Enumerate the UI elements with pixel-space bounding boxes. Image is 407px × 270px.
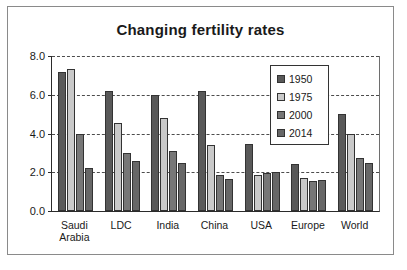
bar — [356, 158, 364, 211]
bar — [263, 173, 271, 211]
x-axis-labels: SaudiArabiaLDCIndiaChinaUSAEuropeWorld — [51, 215, 378, 255]
y-tick-label: 8.0 — [30, 50, 45, 62]
chart-frame: Changing fertility rates 0.02.04.06.08.0… — [7, 6, 394, 255]
bar — [76, 134, 84, 212]
bar — [85, 168, 93, 211]
plot-area: 0.02.04.06.08.0 — [51, 56, 380, 212]
bar — [151, 95, 159, 211]
y-tick-label: 4.0 — [30, 128, 45, 140]
x-axis-label: LDC — [98, 219, 145, 231]
bar — [338, 114, 346, 211]
bar — [207, 145, 215, 211]
bar-group — [52, 56, 99, 211]
x-axis-label: USA — [238, 219, 285, 231]
y-tick-mark — [48, 211, 52, 212]
bar-group — [99, 56, 146, 211]
bar — [105, 91, 113, 211]
chart-legend: 1950197520002014 — [270, 65, 329, 145]
legend-label: 1950 — [289, 73, 312, 85]
y-tick-label: 2.0 — [30, 166, 45, 178]
bar — [123, 153, 131, 211]
bars-layer — [52, 56, 379, 211]
bar — [132, 161, 140, 211]
bar — [114, 123, 122, 211]
legend-label: 2014 — [289, 127, 312, 139]
x-axis-label: Europe — [285, 219, 332, 231]
bar — [216, 175, 224, 211]
bar — [365, 163, 373, 211]
bar — [245, 144, 253, 211]
legend-swatch — [277, 93, 285, 101]
bar — [309, 181, 317, 211]
bar-group — [192, 56, 239, 211]
bar — [67, 69, 75, 211]
legend-item: 2000 — [277, 106, 328, 124]
legend-item: 1975 — [277, 88, 328, 106]
bar-group — [145, 56, 192, 211]
legend-swatch — [277, 129, 285, 137]
x-axis-label: World — [331, 219, 378, 231]
bar — [225, 179, 233, 211]
bar — [178, 163, 186, 211]
bar-group — [332, 56, 379, 211]
y-tick-label: 6.0 — [30, 89, 45, 101]
bar — [300, 178, 308, 211]
legend-swatch — [277, 75, 285, 83]
bar — [254, 175, 262, 211]
bar — [272, 172, 280, 211]
legend-item: 2014 — [277, 124, 328, 142]
legend-label: 1975 — [289, 91, 312, 103]
legend-swatch — [277, 111, 285, 119]
bar — [160, 118, 168, 211]
x-axis-label: China — [191, 219, 238, 231]
bar — [198, 91, 206, 211]
bar — [291, 164, 299, 211]
legend-item: 1950 — [277, 70, 328, 88]
x-axis-label: India — [144, 219, 191, 231]
bar — [318, 180, 326, 211]
bar — [58, 72, 66, 212]
chart-title: Changing fertility rates — [8, 21, 393, 38]
legend-label: 2000 — [289, 109, 312, 121]
bar — [347, 134, 355, 212]
bar — [169, 151, 177, 211]
y-tick-label: 0.0 — [30, 205, 45, 217]
x-axis-label: SaudiArabia — [51, 219, 98, 243]
